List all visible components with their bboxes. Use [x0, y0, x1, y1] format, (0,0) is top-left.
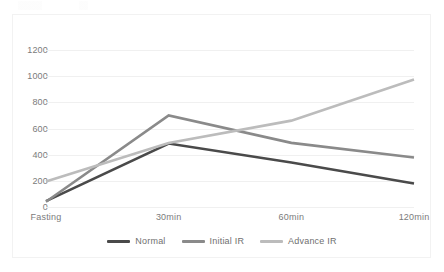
legend-swatch-icon — [107, 240, 130, 243]
plot-area — [46, 50, 414, 207]
legend-label: Advance IR — [288, 236, 337, 246]
line-chart: 020040060080010001200 Fasting30min60min1… — [0, 0, 444, 272]
x-tick-label: 120min — [399, 212, 430, 222]
x-tick-label: Fasting — [31, 212, 62, 222]
y-tick-label: 1200 — [12, 45, 48, 56]
legend-label: Normal — [135, 236, 165, 246]
y-tick-label: 1000 — [12, 71, 48, 82]
legend-item[interactable]: Normal — [107, 236, 165, 246]
x-axis: Fasting30min60min120min — [46, 212, 414, 228]
chart-legend: NormalInitial IRAdvance IR — [0, 236, 444, 246]
gridline — [46, 207, 414, 208]
y-axis: 020040060080010001200 — [12, 44, 48, 214]
y-tick-label: 800 — [12, 97, 48, 108]
y-tick-label: 600 — [12, 124, 48, 135]
y-tick-label: 400 — [12, 150, 48, 161]
legend-swatch-icon — [182, 240, 205, 243]
y-tick-label: 200 — [12, 176, 48, 187]
top-edge-artifact — [18, 1, 128, 10]
legend-swatch-icon — [260, 240, 283, 243]
series-line — [46, 79, 414, 181]
x-tick-label: 60min — [279, 212, 305, 222]
series-line — [46, 115, 414, 201]
legend-item[interactable]: Initial IR — [182, 236, 245, 246]
x-tick-label: 30min — [156, 212, 182, 222]
legend-label: Initial IR — [210, 236, 245, 246]
legend-item[interactable]: Advance IR — [260, 236, 337, 246]
series-layer — [46, 50, 414, 207]
